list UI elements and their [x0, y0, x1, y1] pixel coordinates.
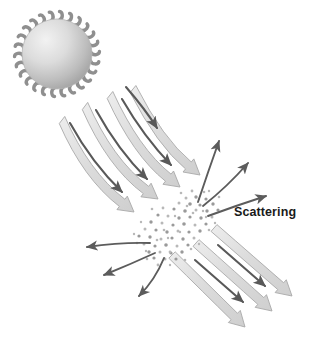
particle	[148, 235, 151, 238]
particle	[162, 207, 165, 210]
particle	[202, 210, 204, 212]
particle	[169, 264, 171, 266]
particle	[176, 245, 179, 248]
particle	[156, 213, 159, 216]
scatter-arrow-down-left	[104, 253, 155, 275]
particle	[194, 195, 197, 198]
scatter-arrow-up-left	[198, 141, 219, 202]
sun	[15, 12, 100, 97]
incoming-light-beams	[59, 86, 200, 212]
particle	[214, 222, 216, 224]
particle	[211, 202, 214, 205]
particle	[183, 209, 187, 213]
particle	[153, 244, 156, 247]
particle	[144, 228, 147, 231]
particle	[174, 215, 176, 217]
particle	[208, 229, 211, 232]
particle	[204, 197, 207, 200]
scatter-arrow-down	[139, 258, 164, 296]
particle	[179, 231, 181, 233]
incoming-direction-arrows	[70, 87, 171, 192]
scatter-arrow-left	[87, 243, 150, 247]
particle	[208, 190, 210, 192]
particle	[184, 259, 187, 262]
particle	[205, 209, 208, 212]
particle	[193, 237, 196, 240]
sun-disc	[22, 19, 92, 89]
particle	[146, 258, 149, 261]
particle	[171, 223, 174, 226]
particle	[167, 237, 169, 239]
particle	[186, 205, 189, 208]
incoming-beam-4	[130, 86, 200, 175]
particle	[205, 216, 207, 218]
particle	[133, 233, 135, 235]
particle	[195, 209, 198, 212]
particle	[198, 243, 200, 245]
particle	[188, 202, 192, 206]
particle	[149, 220, 152, 223]
particle	[180, 192, 183, 195]
particle	[145, 250, 147, 252]
particle	[204, 222, 207, 225]
particle	[170, 236, 173, 239]
outgoing-beam-1	[169, 252, 245, 327]
diagram-canvas: Scattering	[0, 0, 313, 345]
transmitted-light-beams	[169, 225, 292, 327]
particle	[137, 234, 140, 237]
particle	[174, 257, 177, 260]
particle	[218, 196, 221, 199]
particle	[157, 264, 160, 267]
particle	[167, 215, 170, 218]
particle	[181, 237, 184, 240]
particle	[203, 191, 206, 194]
particle	[164, 243, 168, 247]
incoming-thin-arrow-4	[126, 87, 157, 128]
particle	[186, 243, 189, 246]
particle	[140, 221, 142, 223]
particle	[160, 238, 163, 241]
particle	[161, 222, 164, 225]
particle	[152, 256, 155, 259]
particle	[190, 248, 193, 251]
particle	[198, 229, 201, 232]
particle	[159, 251, 162, 254]
particle	[192, 212, 195, 215]
particle	[194, 224, 197, 227]
particle	[156, 239, 159, 242]
particle	[199, 216, 202, 219]
particle	[187, 230, 190, 233]
scattering-diagram: Scattering	[0, 0, 313, 345]
particle	[169, 251, 172, 254]
particle	[165, 230, 168, 233]
particle	[163, 229, 166, 232]
particle	[178, 202, 181, 205]
particle	[180, 250, 183, 253]
particle	[182, 222, 186, 226]
particle	[185, 197, 188, 200]
particle	[154, 228, 157, 231]
particle	[211, 216, 214, 219]
particle	[191, 190, 194, 193]
particle	[172, 207, 175, 210]
particle	[151, 208, 154, 211]
particle	[188, 215, 191, 218]
particle	[198, 203, 201, 206]
scattering-label: Scattering	[234, 205, 296, 219]
particle	[147, 250, 150, 253]
particle	[177, 216, 180, 219]
